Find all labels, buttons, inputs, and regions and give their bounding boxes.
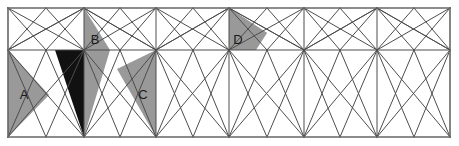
- region-label-c: C: [138, 87, 147, 102]
- tessellation-figure: ABCD: [0, 0, 459, 146]
- region-label-a: A: [20, 87, 29, 102]
- tiling-svg: ABCD: [0, 0, 459, 146]
- region-label-d: D: [233, 32, 242, 47]
- region-label-b: B: [91, 32, 100, 47]
